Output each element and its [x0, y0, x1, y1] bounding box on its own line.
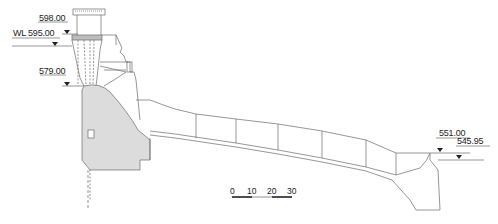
chute-floor-line	[150, 131, 430, 175]
elevation-label-sill: 579.00	[39, 66, 65, 76]
chute-upper-line	[136, 100, 430, 153]
elevation-label-water-level: WL 595.00	[13, 28, 54, 38]
scale-tick-20: 20	[267, 186, 276, 196]
elevation-marker-icon	[64, 30, 70, 34]
elevation-marker-icon	[52, 42, 58, 46]
elevation-marker-icon	[437, 148, 443, 152]
scale-tick-30: 30	[287, 186, 296, 196]
dam-body	[82, 85, 150, 170]
flip-bucket	[392, 153, 440, 210]
elevation-label-crest: 598.00	[39, 13, 65, 23]
scale-tick-0: 0	[230, 186, 235, 196]
elevation-marker-icon	[64, 82, 70, 86]
elevation-marker-icon	[456, 155, 462, 159]
hoist-top	[73, 9, 105, 15]
scale-tick-10: 10	[247, 186, 256, 196]
elevation-label-tailwater: 545.95	[457, 136, 483, 146]
